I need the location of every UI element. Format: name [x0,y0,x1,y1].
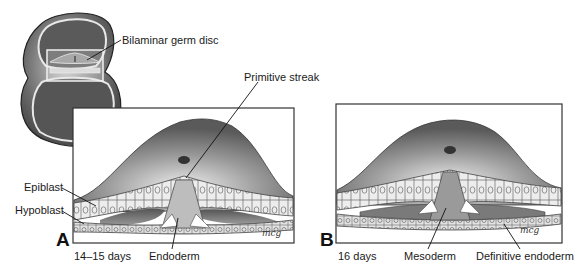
signature-a: mcg [262,228,282,238]
label-mesoderm: Mesoderm [404,250,456,262]
label-bilaminar-germ-disc: Bilaminar germ disc [122,34,219,46]
label-epiblast: Epiblast [24,181,63,193]
label-endoderm: Endoderm [149,250,200,262]
panel-b-age: 16 days [338,250,377,262]
panel-b-letter: B [320,229,334,251]
label-definitive-endoderm: Definitive endoderm [476,250,574,262]
panel-a-illustration: mcg [73,108,294,243]
signature-b: mcg [520,225,540,235]
label-primitive-streak: Primitive streak [244,71,319,83]
panel-a-letter: A [56,229,70,251]
label-hypoblast: Hypoblast [15,204,64,216]
panel-b-illustration: mcg [336,104,562,243]
panel-a-age: 14–15 days [74,250,131,262]
embryo-diagram: mcg mcg [0,0,581,277]
